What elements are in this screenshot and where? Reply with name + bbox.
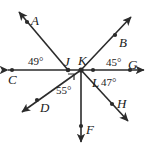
diagram-canvas <box>0 0 151 148</box>
geometry-diagram: A B C D F G H J K L 49° 45° 47° 55° <box>0 0 151 148</box>
point-dot-K <box>78 67 83 72</box>
point-label-L: L <box>92 76 99 89</box>
point-label-G: G <box>128 58 137 71</box>
point-dot-B <box>113 33 117 37</box>
point-label-H: H <box>117 97 126 110</box>
point-label-K: K <box>78 54 87 67</box>
point-label-B: B <box>119 36 127 49</box>
point-label-J: J <box>64 55 70 68</box>
angle-label-55: 55° <box>56 85 71 96</box>
ray-KD <box>22 70 81 112</box>
point-dot-A <box>25 20 29 24</box>
point-label-C: C <box>8 73 17 86</box>
point-dot-F <box>79 124 83 128</box>
angle-label-47: 47° <box>101 77 116 88</box>
point-label-D: D <box>40 101 49 114</box>
point-dot-D <box>35 98 39 102</box>
angle-label-49: 49° <box>28 56 43 67</box>
angle-label-45: 45° <box>106 57 121 68</box>
point-label-A: A <box>31 14 39 27</box>
point-label-F: F <box>86 123 94 136</box>
point-dot-H <box>110 102 114 106</box>
point-dot-L <box>91 68 95 72</box>
